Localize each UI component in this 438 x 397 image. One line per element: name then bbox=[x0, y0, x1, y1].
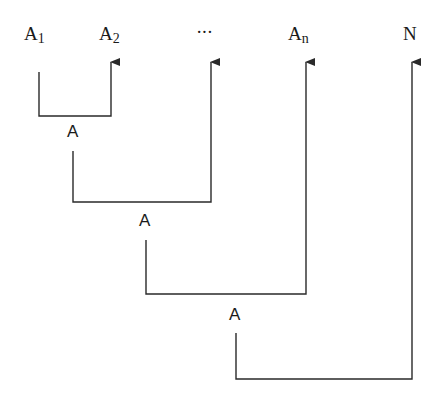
label-ellipsis: ··· bbox=[196, 22, 212, 41]
label-an: An bbox=[288, 24, 309, 43]
bracket-a-an bbox=[146, 62, 306, 294]
combine-label-3: A bbox=[229, 306, 240, 323]
bracket-a-n bbox=[236, 62, 412, 379]
bracket-a-ellipsis bbox=[73, 62, 211, 202]
diagram-canvas: A1 A2 ··· An N A A A bbox=[0, 0, 438, 397]
combine-label-2: A bbox=[139, 212, 150, 229]
connector-lines bbox=[0, 0, 438, 397]
label-a1: A1 bbox=[24, 24, 45, 43]
label-a2: A2 bbox=[99, 24, 120, 43]
combine-label-1: A bbox=[67, 123, 78, 140]
label-n: N bbox=[403, 24, 417, 43]
bracket-a1-a2 bbox=[39, 62, 111, 116]
